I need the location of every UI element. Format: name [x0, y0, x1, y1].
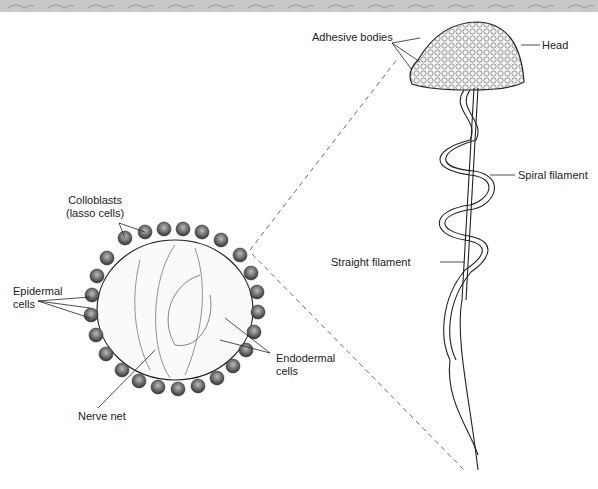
- label-nerve-net: Nerve net: [78, 410, 126, 423]
- label-colloblasts-line2: (lasso cells): [66, 207, 124, 220]
- label-epidermal-line2: cells: [13, 298, 63, 311]
- label-epidermal-cells: Epidermal cells: [13, 285, 63, 311]
- spiral-filament-drawing: [439, 90, 494, 360]
- label-colloblasts-line1: Colloblasts: [66, 194, 124, 207]
- colloblast-head-drawing: [410, 22, 524, 90]
- label-endodermal-line2: cells: [276, 365, 335, 378]
- label-epidermal-line1: Epidermal: [13, 285, 63, 298]
- tentacle-cross-section: [97, 240, 253, 380]
- label-endodermal-cells: Endodermal cells: [276, 352, 335, 378]
- label-endodermal-line1: Endodermal: [276, 352, 335, 365]
- label-colloblasts: Colloblasts (lasso cells): [66, 194, 124, 220]
- label-head: Head: [542, 39, 568, 52]
- label-spiral-filament: Spiral filament: [518, 169, 588, 182]
- label-adhesive-bodies: Adhesive bodies: [312, 31, 393, 44]
- label-straight-filament: Straight filament: [331, 256, 410, 269]
